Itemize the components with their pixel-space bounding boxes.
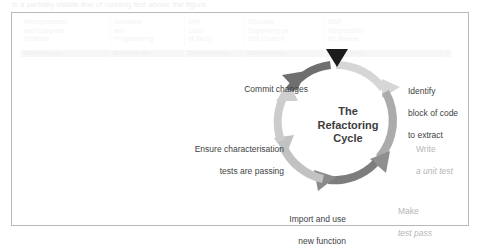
ensure-characterisation-line-1: Ensure characterisation [162,144,284,155]
page-top-text-fragment: is a partially visible line of running t… [12,0,312,9]
identify-block-line-2: block of code [408,108,482,119]
refactoring-cycle-diagram: The Refactoring Cycle Commit changes Ide… [12,13,470,227]
diagram-title-line-1: The [308,105,388,119]
make-test-pass-line-2: test pass [398,228,468,239]
commit-changes-label: Commit changes [216,73,308,106]
make-test-pass-line-1: Make [398,206,468,217]
diagram-title-line-2: Refactoring [308,119,388,133]
diagram-title-line-3: Cycle [308,132,388,146]
import-new-function-line-1: Import and use [242,214,346,225]
import-new-function-label: Import and use new function [242,203,346,248]
make-test-pass-label: Make test pass [398,195,468,248]
commit-changes-line-1: Commit changes [216,84,308,95]
cycle-arrow-segment-1 [336,61,400,98]
write-unit-test-line-1: Write [416,144,482,155]
identify-block-line-1: Identify [408,86,482,97]
write-unit-test-line-2: a unit test [416,166,482,177]
diagram-center-title: The Refactoring Cycle [308,105,388,146]
figure-frame: Microprocessor and Computer Systems Comp… [11,12,469,226]
ensure-characterisation-line-2: tests are passing [162,166,284,177]
write-unit-test-label: Write a unit test [416,133,482,188]
ensure-characterisation-label: Ensure characterisation tests are passin… [162,133,284,188]
import-new-function-line-2: new function [242,236,346,247]
